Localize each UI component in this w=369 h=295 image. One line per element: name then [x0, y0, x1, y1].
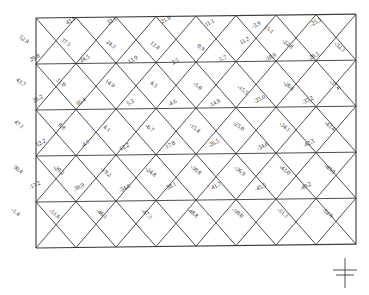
truss-force-diagram: 43.933.121.811.1-3.9-25.352.937.524.313.…: [0, 0, 369, 295]
truss-geometry: [0, 0, 369, 295]
ground-symbol: [333, 258, 357, 288]
